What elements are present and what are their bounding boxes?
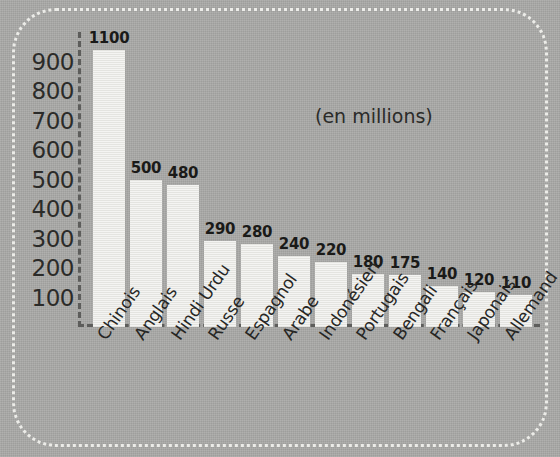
y-axis-tick-labels: 900800700600500400300200100 — [22, 32, 74, 327]
bar-value-label: 1100 — [89, 29, 130, 47]
bar-value-label: 280 — [242, 223, 272, 241]
y-axis-line — [78, 32, 81, 327]
y-tick-900: 900 — [32, 49, 74, 75]
bar-column: 280 — [241, 32, 273, 327]
y-tick-500: 500 — [32, 167, 74, 193]
chart-page: 900800700600500400300200100 110050048029… — [0, 0, 560, 457]
bar-value-label: 220 — [316, 241, 346, 259]
bar-column: 480 — [167, 32, 199, 327]
bar-column: 1100 — [93, 32, 125, 327]
bar-value-label: 140 — [427, 265, 457, 283]
y-tick-100: 100 — [32, 285, 74, 311]
unit-annotation: (en millions) — [315, 105, 433, 127]
bar-column: 500 — [130, 32, 162, 327]
y-tick-600: 600 — [32, 137, 74, 163]
y-tick-800: 800 — [32, 78, 74, 104]
y-tick-700: 700 — [32, 108, 74, 134]
bar-value-label: 290 — [205, 220, 235, 238]
bar-value-label: 480 — [168, 164, 198, 182]
bar-column: 140 — [426, 32, 458, 327]
bar-value-label: 240 — [279, 235, 309, 253]
bar-value-label: 500 — [131, 159, 161, 177]
y-tick-200: 200 — [32, 255, 74, 281]
x-axis-category-labels: ChinoisAnglaisHindi UrduRusseEspagnolAra… — [93, 332, 553, 442]
y-tick-300: 300 — [32, 226, 74, 252]
bar-column: 220 — [315, 32, 347, 327]
bar-rect — [93, 50, 125, 327]
y-tick-400: 400 — [32, 196, 74, 222]
